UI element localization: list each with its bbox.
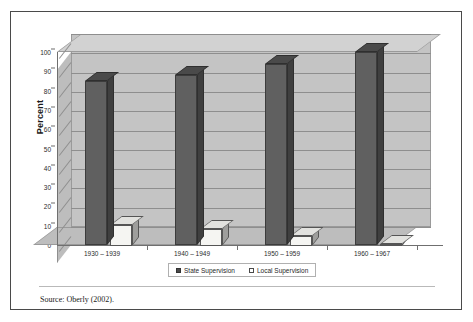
bar-side-face xyxy=(287,55,294,245)
y-axis-tick-mark xyxy=(51,49,55,50)
bar-side-face xyxy=(197,66,204,245)
legend-label-state: State Supervision xyxy=(184,267,235,274)
x-axis-tick-mark xyxy=(417,246,418,250)
bar-group xyxy=(327,52,417,245)
bar-front-face xyxy=(265,64,287,245)
legend-swatch-local-icon xyxy=(249,268,254,273)
bar-chart: Percent 0102030405060708090100 1930 – 19… xyxy=(11,12,463,260)
bar-group xyxy=(57,52,147,245)
y-axis-tick-mark xyxy=(51,87,55,88)
y-axis-tick: 60 xyxy=(44,126,51,133)
y-axis-tick-mark xyxy=(51,68,55,69)
bar-front-face xyxy=(175,75,197,245)
bar-local-supervision[interactable] xyxy=(380,244,402,246)
y-axis-tick-mark xyxy=(51,203,55,204)
bar-state-supervision[interactable] xyxy=(355,52,377,245)
x-axis-tick-label: 1930 – 1939 xyxy=(57,250,147,257)
plot-area xyxy=(57,34,443,246)
bar-side-face xyxy=(377,43,384,245)
y-axis-tick: 10 xyxy=(44,222,51,229)
bar-front-face xyxy=(355,52,377,245)
y-axis-tick: 90 xyxy=(44,68,51,75)
chart-legend: State Supervision Local Supervision xyxy=(168,263,316,277)
legend-entry-local: Local Supervision xyxy=(249,267,308,274)
bar-group xyxy=(147,52,237,245)
legend-swatch-state-icon xyxy=(176,268,181,273)
y-axis-tick-labels: 0102030405060708090100 xyxy=(33,34,55,234)
source-divider xyxy=(39,286,435,287)
y-axis-tick-mark xyxy=(51,184,55,185)
x-axis-tick-label: 1960 – 1967 xyxy=(327,250,417,257)
y-axis-tick: 70 xyxy=(44,106,51,113)
gridline xyxy=(71,34,431,35)
bar-side-face xyxy=(107,72,114,245)
y-axis-tick-mark xyxy=(51,222,55,223)
y-axis-tick-mark xyxy=(51,106,55,107)
y-axis-tick: 30 xyxy=(44,184,51,191)
figure-frame: Percent 0102030405060708090100 1930 – 19… xyxy=(10,11,462,310)
bar-front-face xyxy=(380,244,402,246)
y-axis-tick: 40 xyxy=(44,164,51,171)
y-axis-tick-mark xyxy=(51,164,55,165)
bar-state-supervision[interactable] xyxy=(85,81,107,245)
y-axis-tick-mark xyxy=(51,145,55,146)
bar-front-face xyxy=(85,81,107,245)
x-axis-tick-labels: 1930 – 19391940 – 19491950 – 19591960 – … xyxy=(57,248,443,262)
x-axis-tick-label: 1940 – 1949 xyxy=(147,250,237,257)
y-axis-tick: 100 xyxy=(40,49,51,56)
bar-state-supervision[interactable] xyxy=(175,75,197,245)
y-axis-tick-mark xyxy=(51,126,55,127)
legend-entry-state: State Supervision xyxy=(176,267,235,274)
bar-group xyxy=(237,52,327,245)
legend-label-local: Local Supervision xyxy=(257,267,308,274)
bar-state-supervision[interactable] xyxy=(265,64,287,245)
y-axis-tick: 80 xyxy=(44,87,51,94)
source-note: Source: Oberly (2002). xyxy=(40,295,114,304)
y-axis-tick: 20 xyxy=(44,203,51,210)
y-axis-tick: 50 xyxy=(44,145,51,152)
bar-top-face xyxy=(380,235,414,244)
x-axis-tick-label: 1950 – 1959 xyxy=(237,250,327,257)
